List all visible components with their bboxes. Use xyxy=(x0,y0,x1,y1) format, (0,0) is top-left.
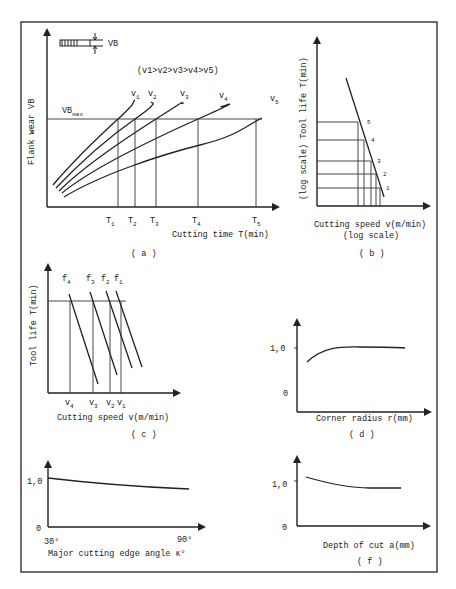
svg-text:1,0: 1,0 xyxy=(270,344,285,354)
svg-text:f2: f2 xyxy=(101,274,110,286)
caption-a: ( a ) xyxy=(131,249,157,259)
panel-d: 1,0 0 Corner radius r(mm) ( d ) xyxy=(270,320,430,440)
y-axis-label-a: Flank wear VB xyxy=(27,99,37,165)
svg-text:30°: 30° xyxy=(44,537,59,547)
curve-corner-radius xyxy=(307,347,405,362)
x-axis-label-e: Major cutting edge angle κ° xyxy=(48,549,186,559)
inset-vb-label: VB xyxy=(108,39,118,49)
svg-text:T1: T1 xyxy=(106,216,115,228)
svg-text:3: 3 xyxy=(377,158,381,165)
svg-text:T5: T5 xyxy=(252,216,261,228)
x-axis-label-b-2: (log scale) xyxy=(343,231,399,241)
svg-text:1,0: 1,0 xyxy=(272,480,287,490)
speed-order-label: (v1>v2>v3>v4>v5) xyxy=(137,66,219,76)
svg-text:f3: f3 xyxy=(86,274,95,286)
x-axis-label-b-1: Cutting speed v(m/min) xyxy=(314,220,426,230)
x-axis-label-f: Depth of cut a(mm) xyxy=(323,541,415,551)
svg-text:5: 5 xyxy=(367,119,371,126)
svg-text:4: 4 xyxy=(371,137,375,144)
panel-c: Tool life T(min) f4 f3 f2 f1 v4 v3 v2 v1… xyxy=(29,265,179,440)
svg-text:v4: v4 xyxy=(65,398,74,410)
svg-text:T4: T4 xyxy=(192,216,201,228)
curve-v5 xyxy=(64,118,262,197)
taylor-line xyxy=(346,78,384,197)
caption-d: ( d ) xyxy=(349,430,375,440)
svg-text:v1: v1 xyxy=(131,89,140,101)
svg-text:v2: v2 xyxy=(148,89,157,101)
svg-text:f1: f1 xyxy=(114,274,123,286)
svg-text:T2: T2 xyxy=(128,216,137,228)
caption-c: ( c ) xyxy=(131,430,157,440)
svg-text:v5: v5 xyxy=(270,94,279,106)
y-axis-label-b: (log scale) Tool life T(min) xyxy=(299,57,309,200)
svg-text:v4: v4 xyxy=(219,91,228,103)
x-axis-label-a: Cutting time T(min) xyxy=(172,230,269,240)
svg-text:f4: f4 xyxy=(62,274,71,286)
caption-b: ( b ) xyxy=(359,249,385,259)
vbmax-label: VBmax xyxy=(62,106,83,118)
panel-a: VB (v1>v2>v3>v4>v5) Flank wear VB VBmax … xyxy=(27,30,279,259)
tool-flank-icon xyxy=(60,33,103,54)
figure: VB (v1>v2>v3>v4>v5) Flank wear VB VBmax … xyxy=(0,0,456,589)
svg-text:2: 2 xyxy=(383,171,387,178)
panel-e: 1,0 0 30° 90° Major cutting edge angle κ… xyxy=(27,462,204,559)
curve-cutting-angle xyxy=(48,478,189,489)
curve-depth-of-cut xyxy=(306,477,401,488)
svg-text:90°: 90° xyxy=(177,535,192,545)
svg-text:1,0: 1,0 xyxy=(27,477,42,487)
svg-text:0: 0 xyxy=(283,389,288,399)
x-axis-label-c: Cutting speed v(m/min) xyxy=(57,413,169,423)
x-axis-label-d: Corner radius r(mm) xyxy=(316,414,413,424)
svg-text:v2: v2 xyxy=(106,398,115,410)
y-axis-label-c: Tool life T(min) xyxy=(29,284,39,366)
caption-f: ( f ) xyxy=(357,557,383,567)
panel-b: (log scale) Tool life T(min) 5 4 3 2 1 C… xyxy=(299,38,429,259)
svg-text:v3: v3 xyxy=(89,398,98,410)
svg-text:v1: v1 xyxy=(117,398,126,410)
svg-text:v3: v3 xyxy=(180,89,189,101)
svg-text:0: 0 xyxy=(282,523,287,533)
svg-text:0: 0 xyxy=(36,524,41,534)
svg-text:1: 1 xyxy=(386,185,390,192)
svg-text:T3: T3 xyxy=(150,216,159,228)
panel-f: 1,0 0 Depth of cut a(mm) ( f ) xyxy=(272,457,429,567)
